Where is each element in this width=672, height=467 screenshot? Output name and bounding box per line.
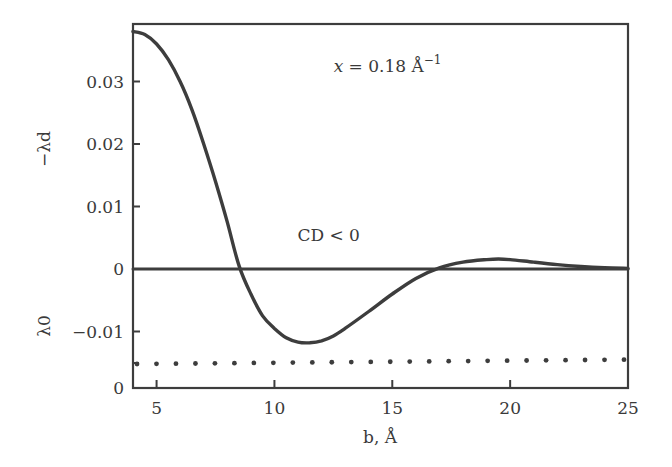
- dotted-line-dot: [407, 359, 412, 364]
- dotted-line-dot: [544, 358, 549, 363]
- y-tick-label: 0: [113, 378, 124, 398]
- x-tick-label: 10: [264, 398, 286, 418]
- dotted-line-dot: [524, 358, 529, 363]
- plot-border: [133, 24, 628, 388]
- dotted-line-dot: [563, 358, 568, 363]
- dotted-line-dot: [622, 357, 627, 362]
- x-tick-label: 25: [617, 398, 639, 418]
- y-axis-title-upper: −λd: [34, 131, 54, 167]
- dotted-line-dot: [505, 358, 510, 363]
- dotted-line-dot: [349, 360, 354, 365]
- dotted-line-dot: [271, 360, 276, 365]
- dotted-line-dot: [427, 359, 432, 364]
- dotted-line-dot: [251, 361, 256, 366]
- chart: 0.030.020.010−0.010 510152025 b, Å −λd λ…: [0, 0, 672, 467]
- y-tick-label: −0.01: [72, 322, 124, 342]
- y-axis-ticks: 0.030.020.010−0.010: [72, 72, 140, 399]
- dotted-line-dot: [154, 361, 159, 366]
- x-tick-label: 15: [381, 398, 403, 418]
- dotted-line-dot: [193, 361, 198, 366]
- x-axis-ticks: 510152025: [151, 380, 639, 418]
- x-tick-label: 20: [499, 398, 521, 418]
- y-tick-label: 0.02: [86, 134, 124, 154]
- dotted-line-dot: [174, 361, 179, 366]
- dotted-line-dot: [466, 359, 471, 364]
- dotted-line-dot: [310, 360, 315, 365]
- dotted-line-dot: [135, 362, 140, 367]
- dotted-line-dot: [602, 357, 607, 362]
- dotted-line-dot: [232, 361, 237, 366]
- dotted-line-dot: [388, 359, 393, 364]
- series-layer: [133, 32, 628, 367]
- plot-frame: [133, 24, 628, 388]
- x-tick-label: 5: [151, 398, 162, 418]
- y-tick-label: 0: [113, 259, 124, 279]
- x-axis-title: b, Å: [363, 427, 398, 447]
- dotted-line-dot: [368, 360, 373, 365]
- lambda-d-curve: [133, 32, 628, 343]
- y-axis-title-lower: λ0: [34, 315, 54, 337]
- annotations: x = 0.18 Å−1CD < 0: [297, 53, 441, 245]
- annotation: CD < 0: [297, 225, 360, 245]
- dotted-line-dot: [583, 358, 588, 363]
- y-tick-label: 0.03: [86, 72, 124, 92]
- dotted-line-dot: [329, 360, 334, 365]
- dotted-line-dot: [485, 358, 490, 363]
- dotted-line-dot: [213, 361, 218, 366]
- dotted-line-dot: [290, 360, 295, 365]
- dotted-line-dot: [446, 359, 451, 364]
- annotation: x = 0.18 Å−1: [334, 53, 442, 76]
- y-tick-label: 0.01: [86, 197, 124, 217]
